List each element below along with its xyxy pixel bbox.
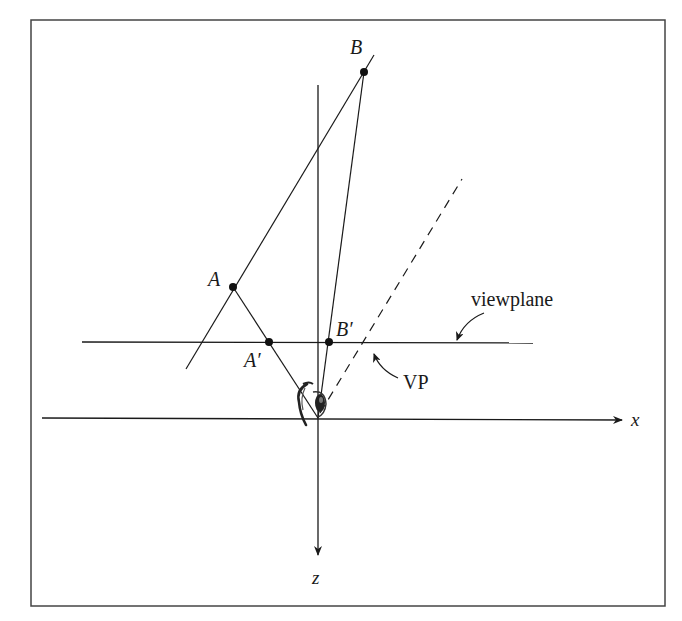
vp-pointer-arrow xyxy=(374,354,398,378)
perspective-projection-diagram: x z viewplane VP B A A′ B′ xyxy=(0,0,682,621)
x-axis-label: x xyxy=(630,409,640,430)
point-b xyxy=(360,68,368,76)
viewplane-line xyxy=(82,342,533,343)
point-a xyxy=(229,283,237,291)
viewplane-pointer-arrow xyxy=(457,313,484,340)
vp-label: VP xyxy=(403,371,429,393)
x-axis xyxy=(42,418,622,420)
vanishing-direction-line xyxy=(320,179,462,413)
point-a-prime-label: A′ xyxy=(242,349,261,371)
point-a-prime xyxy=(265,338,273,346)
point-b-label: B xyxy=(350,36,362,58)
point-b-prime xyxy=(325,338,333,346)
viewplane-label: viewplane xyxy=(471,288,553,311)
point-b-prime-label: B′ xyxy=(336,318,353,340)
z-axis-label: z xyxy=(311,567,320,588)
point-a-label: A xyxy=(206,268,221,290)
projector-b xyxy=(318,72,364,418)
figure-frame xyxy=(31,20,665,606)
